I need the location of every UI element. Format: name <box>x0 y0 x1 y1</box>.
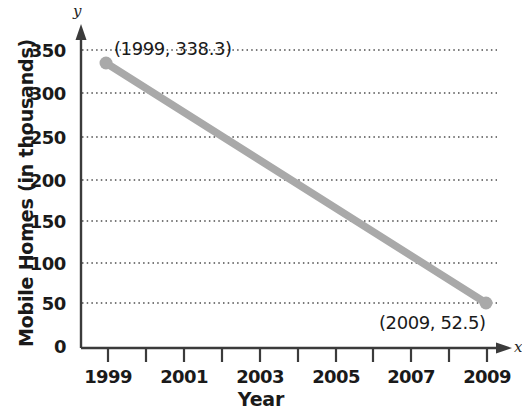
x-tick-label-2009: 2009 <box>452 366 522 387</box>
y-axis-arrowhead <box>76 24 87 40</box>
x-tick-label-2007: 2007 <box>376 366 446 387</box>
data-point-2009 <box>480 297 493 310</box>
data-line-mobile-homes <box>106 63 486 303</box>
x-axis-arrowhead <box>496 343 512 354</box>
y-axis-title: Mobile Homes (in thousands) <box>15 33 37 353</box>
x-tick-label-2001: 2001 <box>149 366 219 387</box>
y-axis-letter: y <box>73 2 81 20</box>
x-axis-letter: x <box>514 338 522 356</box>
annotation-point-1999: (1999, 338.3) <box>114 38 232 59</box>
chart-canvas <box>0 0 522 411</box>
x-axis-title: Year <box>0 388 522 410</box>
line-chart: 350 300 250 200 150 100 50 0 1999 2001 2… <box>0 0 522 411</box>
y-axis <box>76 24 87 348</box>
x-tick-label-2003: 2003 <box>225 366 295 387</box>
annotation-point-2009: (2009, 52.5) <box>379 312 486 333</box>
x-tick-label-2005: 2005 <box>301 366 371 387</box>
x-tick-label-1999: 1999 <box>73 366 143 387</box>
x-axis-ticks <box>108 348 487 362</box>
data-point-1999 <box>100 57 113 70</box>
